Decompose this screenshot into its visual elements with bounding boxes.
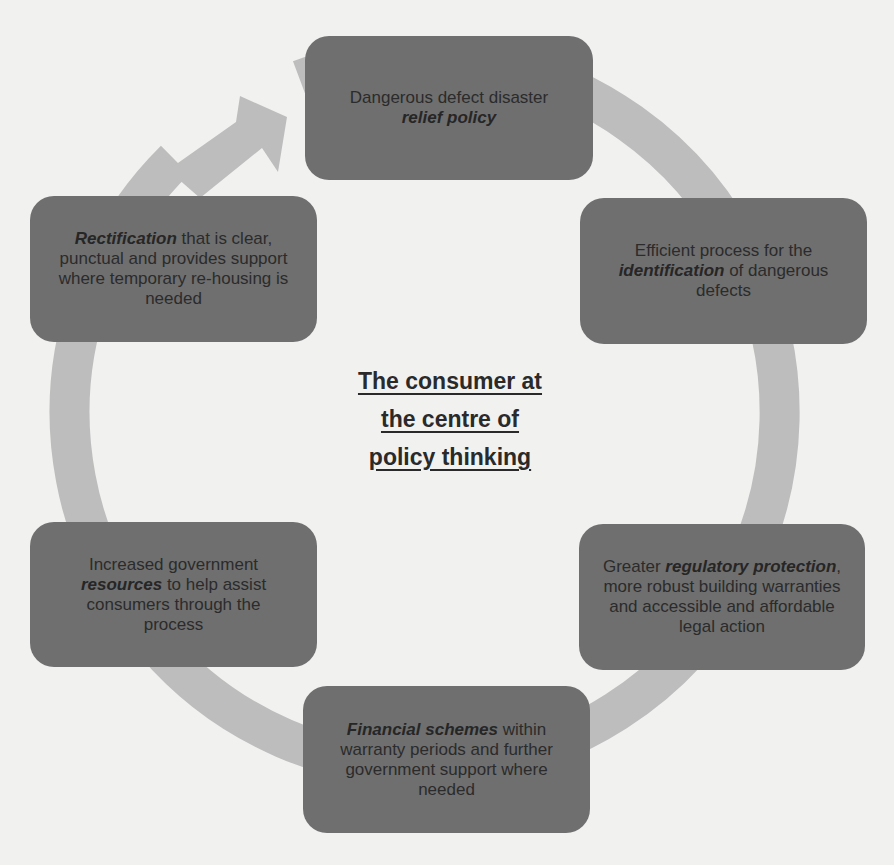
node-emphasis: Rectification <box>75 229 177 248</box>
node-regulatory-protection: Greater regulatory protection, more robu… <box>579 524 865 670</box>
center-title-line: policy thinking <box>300 438 600 476</box>
node-emphasis: identification <box>619 261 725 280</box>
node-rectification: Rectification that is clear, punctual an… <box>30 196 317 342</box>
node-text: Dangerous defect disaster <box>350 88 548 107</box>
node-emphasis: Financial schemes <box>347 720 498 739</box>
node-emphasis: relief policy <box>402 108 496 127</box>
node-identification: Efficient process for the identification… <box>580 198 867 344</box>
node-emphasis: regulatory protection <box>665 557 836 576</box>
center-title: The consumer at the centre of policy thi… <box>300 362 600 476</box>
node-text: Efficient process for the <box>635 241 812 260</box>
center-title-line: The consumer at <box>300 362 600 400</box>
center-title-line: the centre of <box>300 400 600 438</box>
node-text: Greater <box>603 557 665 576</box>
node-text: Increased government <box>89 555 258 574</box>
node-emphasis: resources <box>81 575 162 594</box>
node-financial-schemes: Financial schemes within warranty period… <box>303 686 590 833</box>
node-relief-policy: Dangerous defect disaster relief policy <box>305 36 593 180</box>
node-government-resources: Increased government resources to help a… <box>30 522 317 667</box>
arrowhead-icon <box>168 96 287 198</box>
